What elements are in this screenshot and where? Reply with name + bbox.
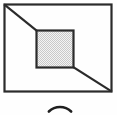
figure-canvas: Rectangle with a shaded square inside, d… [0,0,117,115]
inner-panel [37,31,74,68]
figure-svg [0,0,117,115]
